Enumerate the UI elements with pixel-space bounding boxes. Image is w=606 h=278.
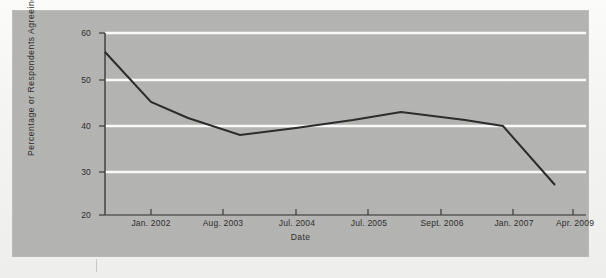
xtick-label-jul-2005: Jul. 2005 bbox=[334, 218, 404, 228]
ytick-label-50: 50 bbox=[69, 75, 91, 85]
chart-panel: 60 50 40 30 20 Jan. 2002 Aug. 2003 Jul. … bbox=[13, 11, 588, 256]
xtick-label-apr-2009: Apr. 2009 bbox=[540, 218, 606, 228]
gridlines bbox=[105, 33, 586, 172]
data-line-series-1 bbox=[105, 52, 555, 185]
scanned-figure: 60 50 40 30 20 Jan. 2002 Aug. 2003 Jul. … bbox=[0, 0, 606, 278]
y-axis-title: Percentage or Respondents Agreeing bbox=[26, 0, 36, 156]
ytick-label-20: 20 bbox=[69, 210, 91, 220]
ytick-label-30: 30 bbox=[69, 167, 91, 177]
ytick-label-60: 60 bbox=[69, 28, 91, 38]
xtick-label-aug-2003: Aug. 2003 bbox=[188, 218, 258, 228]
x-axis-title: Date bbox=[13, 232, 588, 242]
xtick-label-jan-2002: Jan. 2002 bbox=[116, 218, 186, 228]
xtick-label-jan-2007: Jan. 2007 bbox=[479, 218, 549, 228]
ytick-label-40: 40 bbox=[69, 121, 91, 131]
page-artifact-mark bbox=[96, 259, 97, 272]
axis-lines bbox=[105, 33, 586, 215]
y-tick-marks bbox=[99, 33, 105, 215]
xtick-label-jul-2004: Jul. 2004 bbox=[262, 218, 332, 228]
xtick-label-sept-2006: Sept. 2006 bbox=[405, 218, 479, 228]
x-tick-marks bbox=[151, 209, 573, 215]
